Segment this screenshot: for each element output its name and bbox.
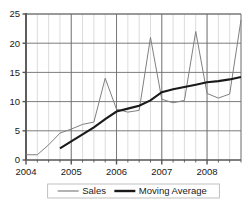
y-tick-label: 0	[15, 154, 20, 165]
chart-legend: SalesMoving Average	[48, 184, 220, 198]
sales-moving-average-chart: 0510152025 20042005200620072008 SalesMov…	[0, 0, 250, 206]
x-tick-label: 2006	[106, 166, 127, 177]
x-tick-label: 2008	[196, 166, 217, 177]
legend-label: Sales	[82, 185, 106, 196]
legend-label: Moving Average	[139, 185, 207, 196]
x-tick-label: 2004	[15, 166, 36, 177]
y-tick-label: 10	[9, 96, 20, 107]
x-tick-label: 2007	[151, 166, 172, 177]
chart-svg: 0510152025 20042005200620072008 SalesMov…	[0, 0, 250, 206]
y-tick-label: 25	[9, 8, 20, 19]
y-tick-label: 5	[15, 125, 20, 136]
y-tick-label: 15	[9, 67, 20, 78]
y-tick-label: 20	[9, 38, 20, 49]
x-tick-label: 2005	[61, 166, 82, 177]
